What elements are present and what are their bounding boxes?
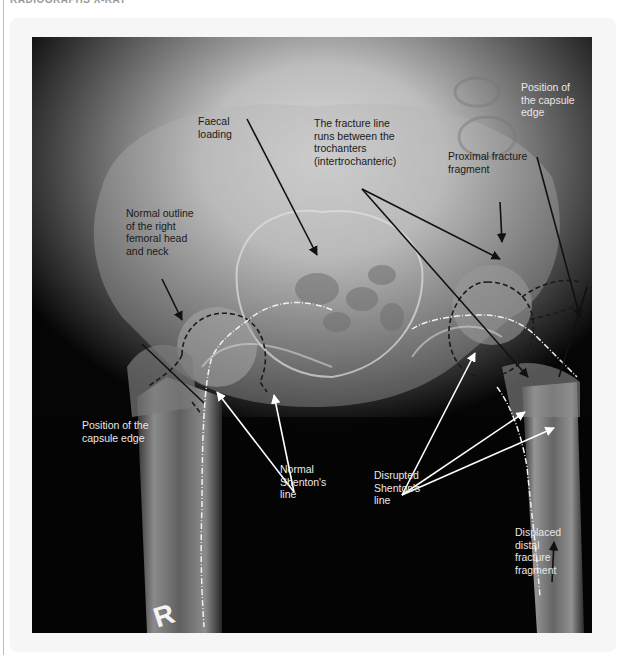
label-normal-outline: Normal outline of the right femoral head…	[126, 207, 194, 257]
label-capsule-edge-right: Position of the capsule edge	[521, 81, 575, 119]
label-faecal-loading: Faecal loading	[198, 115, 232, 140]
label-capsule-edge-left: Position of the capsule edge	[82, 419, 149, 444]
label-displaced-distal: Displaced distal fracture fragment	[515, 526, 561, 576]
page-margin-rule	[3, 0, 4, 655]
label-fracture-line: The fracture line runs between the troch…	[314, 117, 396, 167]
xray-illustration	[32, 37, 592, 633]
running-header: RADIOGRAPHS X-RAY	[10, 0, 126, 5]
label-proximal-fragment: Proximal fracture fragment	[448, 150, 527, 175]
label-normal-shenton: Normal Shenton's line	[280, 463, 326, 501]
pelvis-xray-image: R Faecal loading The fracture line runs …	[32, 37, 592, 633]
label-disrupted-shenton: Disrupted Shenton's line	[374, 469, 420, 507]
